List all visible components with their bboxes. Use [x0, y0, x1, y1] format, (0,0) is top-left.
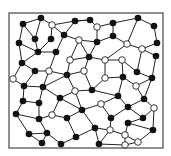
white-node: [122, 132, 129, 139]
black-node: [35, 49, 42, 56]
black-node: [92, 125, 99, 132]
black-node: [36, 116, 43, 123]
white-node: [46, 68, 53, 75]
black-node: [87, 17, 94, 24]
black-node: [141, 96, 148, 103]
black-node: [64, 115, 71, 122]
graph-edge: [127, 18, 138, 44]
graph-edge: [128, 123, 153, 130]
black-node: [48, 36, 55, 43]
graph-edge: [113, 18, 138, 23]
black-node: [108, 115, 115, 122]
black-node: [120, 74, 127, 81]
black-node: [58, 141, 65, 148]
network-diagram: [0, 0, 171, 156]
black-node: [26, 131, 33, 138]
black-node: [125, 120, 132, 127]
white-node: [10, 76, 17, 83]
black-node: [86, 54, 93, 61]
black-node: [19, 60, 26, 67]
black-node: [140, 115, 147, 122]
black-node: [57, 95, 64, 102]
graph-canvas: [0, 0, 171, 156]
diagram-frame: [9, 13, 163, 148]
black-node: [149, 75, 156, 82]
graph-edge: [16, 114, 29, 134]
black-node: [89, 87, 96, 94]
black-node: [115, 93, 122, 100]
white-node: [98, 101, 105, 108]
black-node: [21, 83, 28, 90]
black-node: [20, 21, 27, 28]
white-node: [135, 139, 142, 146]
white-node: [139, 46, 146, 53]
white-node: [102, 57, 109, 64]
black-node: [53, 49, 60, 56]
white-node: [122, 142, 129, 149]
node-layer: [10, 15, 161, 149]
black-node: [150, 127, 157, 134]
white-node: [49, 22, 56, 29]
graph-edge: [82, 110, 95, 128]
black-node: [110, 33, 117, 40]
black-node: [125, 104, 132, 111]
black-node: [135, 15, 142, 22]
white-node: [107, 127, 114, 134]
black-node: [40, 84, 47, 91]
black-node: [20, 98, 27, 105]
graph-edge: [92, 90, 118, 96]
black-node: [32, 68, 39, 75]
graph-edge: [99, 144, 125, 145]
black-node: [96, 141, 103, 148]
white-node: [151, 105, 158, 112]
white-node: [49, 112, 56, 119]
black-node: [153, 53, 160, 60]
black-node: [39, 140, 46, 147]
black-node: [79, 107, 86, 114]
white-node: [72, 88, 79, 95]
black-node: [94, 39, 101, 46]
white-node: [94, 24, 101, 31]
black-node: [154, 40, 161, 47]
black-node: [32, 36, 39, 43]
graph-edge: [16, 114, 39, 119]
white-node: [67, 57, 74, 64]
black-node: [36, 100, 43, 107]
black-node: [151, 23, 158, 30]
black-node: [38, 15, 45, 22]
black-node: [13, 111, 20, 118]
white-node: [119, 57, 126, 64]
black-node: [110, 20, 117, 27]
white-node: [81, 68, 88, 75]
white-node: [102, 75, 109, 82]
black-node: [73, 134, 80, 141]
black-node: [64, 72, 71, 79]
black-node: [134, 69, 141, 76]
black-node: [44, 130, 51, 137]
white-node: [133, 83, 140, 90]
black-node: [61, 32, 68, 39]
white-node: [124, 41, 131, 48]
black-node: [16, 40, 23, 47]
graph-edge: [152, 56, 156, 78]
black-node: [72, 18, 79, 25]
white-node: [76, 37, 83, 44]
